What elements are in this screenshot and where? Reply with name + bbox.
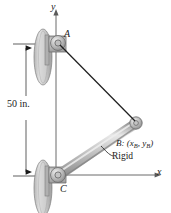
label-point-a: A <box>64 29 70 39</box>
label-axis-y: y <box>51 2 55 12</box>
label-point-b-prefix: B: (x <box>116 138 134 148</box>
label-point-b-mid: , y <box>138 138 147 148</box>
pin-b <box>130 117 142 129</box>
axis-x <box>56 172 161 177</box>
label-axis-x: x <box>157 167 161 177</box>
label-point-b: B: (xB, yB) <box>116 139 153 149</box>
mechanics-figure: A C y x B: (xB, yB) Rigid 50 in. <box>0 0 171 213</box>
pin-c <box>51 168 66 183</box>
support-bracket-upper <box>34 29 66 85</box>
label-point-c: C <box>60 184 67 194</box>
cable-ab <box>60 45 135 121</box>
label-point-b-suffix: ) <box>150 138 153 148</box>
label-dimension-50in: 50 in. <box>7 99 30 109</box>
label-rigid-member: Rigid <box>112 152 133 162</box>
axis-y <box>53 9 58 178</box>
